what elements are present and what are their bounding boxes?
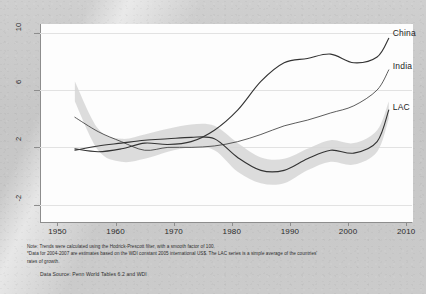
series-line-india xyxy=(75,70,389,151)
series-label-lac: LAC xyxy=(393,102,410,112)
x-axis-label: 1960 xyxy=(96,227,136,236)
x-axis-tick xyxy=(348,222,349,226)
x-axis-label: 1990 xyxy=(270,227,310,236)
note-line-2: *Data for 2004-2007 are estimates based … xyxy=(27,250,419,257)
y-axis-label: 10 xyxy=(14,22,23,42)
x-axis-tick xyxy=(232,222,233,226)
y-axis-label: 2 xyxy=(14,137,23,157)
x-axis-tick xyxy=(116,222,117,226)
x-axis-tick xyxy=(57,222,58,226)
x-axis-tick xyxy=(290,222,291,226)
x-axis-label: 2000 xyxy=(328,227,368,236)
series-label-china: China xyxy=(393,28,416,38)
lac-range-band xyxy=(75,81,389,184)
y-axis-label: -2 xyxy=(14,194,23,214)
series-label-india: India xyxy=(393,61,412,71)
x-axis-label: 1970 xyxy=(154,227,194,236)
x-axis-label: 2010 xyxy=(386,227,426,236)
x-axis-tick xyxy=(174,222,175,226)
note-line-3: rates of growth. xyxy=(27,258,419,265)
x-axis-label: 1980 xyxy=(212,227,252,236)
y-axis-label: 6 xyxy=(14,80,23,100)
series-line-china xyxy=(75,38,389,151)
chart-curves xyxy=(40,24,412,222)
data-source-note: Data Source: Penn World Tables 6.2 and W… xyxy=(40,271,147,277)
x-axis-line xyxy=(40,222,412,223)
x-axis-label: 1950 xyxy=(37,227,77,236)
x-axis-tick xyxy=(406,222,407,226)
note-line-1: Note: Trends were calculated using the H… xyxy=(27,243,419,250)
chart-notes: Note: Trends were calculated using the H… xyxy=(27,243,419,265)
